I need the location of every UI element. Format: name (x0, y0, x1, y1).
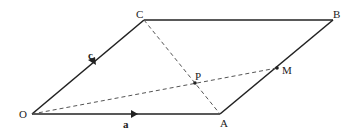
point-M-dot (275, 66, 279, 70)
edge-CO (32, 20, 144, 114)
label-C: C (136, 8, 143, 20)
parallelogram-diagram: O A B C M P a c (0, 0, 343, 140)
label-vector-a: a (123, 118, 129, 130)
label-O: O (19, 108, 27, 120)
label-B: B (333, 8, 340, 20)
label-A: A (220, 117, 228, 129)
label-P: P (195, 70, 201, 82)
dashed-line-OM (32, 68, 277, 114)
dashed-line-CA (144, 20, 220, 114)
vector-a-arrowhead-icon (131, 110, 138, 118)
label-M: M (282, 64, 292, 76)
label-vector-c: c (88, 49, 93, 61)
